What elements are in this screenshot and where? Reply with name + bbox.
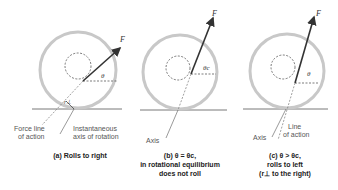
caption-b: (b) θ = θc, in rotational equilibrium do… — [130, 151, 230, 178]
caption-c-line-2: rolls to left — [240, 160, 330, 169]
annotation-axis-b: Axis — [146, 137, 159, 145]
angle-label-c: θ — [307, 70, 310, 78]
caption-c-line-1: (c) θ > θc, — [240, 151, 330, 160]
force-line-of-action — [42, 81, 83, 125]
caption-b-line-3: does not roll — [130, 169, 230, 178]
caption-c-line-3: (r⊥ to the right) — [240, 169, 330, 178]
caption-b-line-1: (b) θ = θc, — [130, 151, 230, 160]
force-label-b: F — [212, 10, 217, 18]
force-label-a: F — [120, 36, 125, 44]
angle-label-b: θc — [203, 64, 210, 72]
annotation-axis-of-rotation: axis of rotation — [73, 133, 119, 141]
annotation-of-action-c: of action — [283, 131, 309, 139]
panel-b-drawing — [140, 18, 227, 138]
annotation-instantaneous: Instantaneous — [73, 125, 117, 133]
perp-label-a: r⊥ — [64, 98, 71, 106]
annotation-line: Line — [288, 123, 301, 131]
angle-label-a: θ — [101, 72, 104, 80]
wheel-axle — [65, 53, 91, 79]
caption-a-line-1: (a) Rolls to right — [30, 151, 130, 160]
annotation-force-line: Force line — [14, 125, 45, 133]
force-label-c: F — [316, 10, 321, 18]
annotation-of-action: of action — [18, 133, 44, 141]
panel-a-drawing — [32, 32, 122, 134]
caption-c: (c) θ > θc, rolls to left (r⊥ to the rig… — [240, 151, 330, 178]
annotation-axis-c: Axis — [253, 134, 266, 142]
panel-c-drawing — [243, 17, 328, 140]
caption-a: (a) Rolls to right — [30, 151, 130, 160]
wheel-outer — [40, 32, 116, 108]
caption-b-line-2: in rotational equilibrium — [130, 160, 230, 169]
